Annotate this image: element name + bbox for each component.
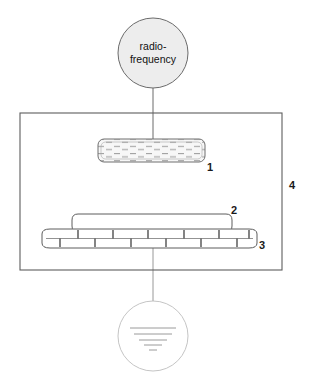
source-label-line-2: frequency (113, 53, 193, 66)
callout-label-3: 3 (259, 240, 265, 251)
callout-label-2: 2 (231, 205, 237, 216)
ground-symbol-circle (118, 301, 188, 371)
source-label-line-1: radio- (113, 40, 193, 53)
radio-frequency-source-label: radio- frequency (113, 40, 193, 66)
callout-label-1: 1 (207, 162, 213, 173)
hatched-electrode (98, 139, 205, 162)
rf-apparatus-diagram: radio- frequency 1 2 3 4 (0, 0, 311, 383)
callout-label-4: 4 (289, 180, 295, 191)
